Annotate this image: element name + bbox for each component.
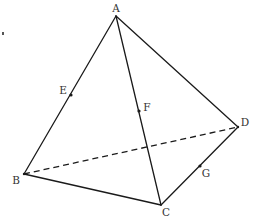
point-f — [137, 109, 140, 112]
point-e — [69, 93, 72, 96]
label-a: A — [111, 2, 120, 14]
label-c: C — [162, 206, 170, 218]
label-e: E — [59, 84, 67, 96]
tetrahedron-diagram: A B C D E F G — [0, 0, 258, 220]
label-g: G — [202, 167, 210, 179]
stray-mark — [2, 32, 4, 35]
label-f: F — [143, 101, 150, 113]
vertex-b-dot — [23, 173, 25, 175]
vertex-d-dot — [237, 126, 239, 128]
edge-ad — [116, 16, 238, 127]
label-b: B — [12, 174, 20, 186]
edge-bc — [24, 174, 161, 205]
label-d: D — [241, 116, 249, 128]
